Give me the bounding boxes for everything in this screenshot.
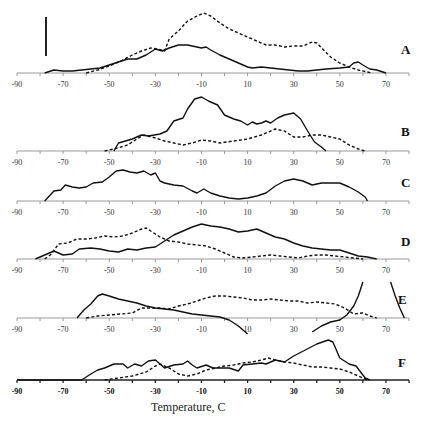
x-tick-label: -90	[12, 387, 23, 396]
panels: -90-70-50-30-1010305070A-90-70-50-30-101…	[12, 13, 411, 396]
x-axis-title: Temperature, C	[151, 400, 225, 414]
x-tick-label: -70	[58, 158, 69, 167]
x-tick-label: -10	[196, 266, 207, 275]
series-solid	[35, 224, 376, 259]
x-tick-label: -30	[150, 80, 161, 89]
x-tick-label: -50	[104, 325, 115, 334]
panel-c: -90-70-50-30-1010305070C	[12, 170, 411, 217]
panel-label: F	[398, 355, 406, 370]
series-dashed	[86, 296, 377, 318]
panel-d: -90-70-50-30-1010305070D	[12, 224, 411, 275]
series-solid	[17, 340, 370, 380]
x-tick-label: -90	[12, 158, 23, 167]
x-tick-label: 10	[244, 158, 252, 167]
x-tick-label: 70	[382, 80, 390, 89]
x-tick-label: 30	[290, 325, 298, 334]
x-tick-label: 50	[336, 158, 344, 167]
x-tick-label: -10	[196, 158, 207, 167]
x-tick-label: 50	[336, 208, 344, 217]
series-solid	[77, 294, 248, 334]
panel-label: A	[401, 42, 411, 57]
x-tick-label: 30	[290, 158, 298, 167]
x-tick-label: -10	[196, 208, 207, 217]
x-tick-label: 70	[382, 325, 390, 334]
x-tick-label: 10	[244, 266, 252, 275]
x-tick-label: -90	[12, 80, 23, 89]
x-tick-label: 10	[244, 387, 252, 396]
x-tick-label: -30	[150, 325, 161, 334]
x-tick-label: -70	[58, 325, 69, 334]
x-tick-label: -30	[150, 208, 161, 217]
x-tick-label: -50	[104, 208, 115, 217]
x-tick-label: 10	[244, 208, 252, 217]
series-dashed	[105, 129, 366, 151]
x-tick-label: -50	[104, 266, 115, 275]
panel-f: -90-70-50-30-1010305070F	[12, 340, 409, 396]
x-tick-label: -90	[12, 325, 23, 334]
series-dashed	[86, 13, 372, 73]
x-tick-label: 50	[336, 80, 344, 89]
x-tick-label: -50	[104, 80, 115, 89]
panel-b: -90-70-50-30-1010305070B	[12, 97, 410, 167]
x-tick-label: -30	[150, 266, 161, 275]
panel-label: E	[398, 292, 407, 307]
x-tick-label: 50	[336, 325, 344, 334]
x-tick-label: -10	[196, 80, 207, 89]
x-tick-label: -50	[104, 158, 115, 167]
x-tick-label: 70	[382, 387, 390, 396]
x-tick-label: 50	[336, 266, 344, 275]
x-tick-label: -70	[58, 387, 69, 396]
x-tick-label: -90	[12, 266, 23, 275]
x-tick-label: -70	[58, 80, 69, 89]
panel-label: D	[401, 234, 410, 249]
x-tick-label: 10	[244, 325, 252, 334]
x-tick-label: -10	[196, 325, 207, 334]
temperature-distribution-chart: -90-70-50-30-1010305070A-90-70-50-30-101…	[0, 0, 440, 426]
panel-label: B	[401, 124, 410, 139]
x-tick-label: 30	[290, 266, 298, 275]
x-tick-label: 10	[244, 80, 252, 89]
x-tick-label: 30	[290, 387, 298, 396]
x-tick-label: -30	[150, 387, 161, 396]
x-tick-label: 50	[336, 387, 344, 396]
x-tick-label: -50	[104, 387, 115, 396]
x-tick-label: 30	[290, 80, 298, 89]
panel-a: -90-70-50-30-1010305070A	[12, 13, 411, 89]
x-tick-label: -70	[58, 266, 69, 275]
x-tick-label: 30	[290, 208, 298, 217]
series-solid	[45, 170, 368, 201]
series-dashed	[105, 358, 368, 380]
x-tick-label: 70	[382, 158, 390, 167]
x-tick-label: -70	[58, 208, 69, 217]
x-tick-label: -30	[150, 158, 161, 167]
panel-label: C	[401, 175, 410, 190]
panel-e: -90-70-50-30-1010305070E	[12, 282, 409, 334]
x-tick-label: 70	[382, 208, 390, 217]
x-tick-label: 70	[382, 266, 390, 275]
x-tick-label: -90	[12, 208, 23, 217]
series-dashed	[45, 228, 363, 259]
x-tick-label: -10	[196, 387, 207, 396]
